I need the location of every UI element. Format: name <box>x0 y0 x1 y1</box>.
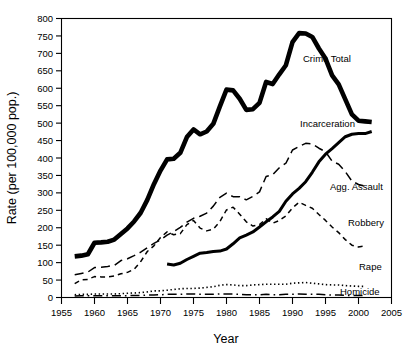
chart-background <box>0 0 417 355</box>
x-tick-label: 2005 <box>381 307 402 318</box>
y-tick-label: 450 <box>37 135 53 146</box>
x-tick-label: 2000 <box>348 307 369 318</box>
series-label-robbery: Robbery <box>348 217 384 228</box>
crime-rate-chart: 0501001502002503003504004505005506006507… <box>0 0 417 355</box>
y-tick-label: 550 <box>37 100 53 111</box>
series-label-homicide: Homicide <box>340 286 380 297</box>
x-axis-title: Year <box>213 332 238 346</box>
y-tick-label: 0 <box>48 292 53 303</box>
x-tick-label: 1955 <box>51 307 72 318</box>
x-tick-label: 1970 <box>150 307 171 318</box>
y-tick-label: 800 <box>37 13 53 24</box>
y-tick-label: 300 <box>37 187 53 198</box>
chart-canvas: 0501001502002503003504004505005506006507… <box>0 0 417 355</box>
series-label-incarceration: Incarceration <box>300 118 355 129</box>
x-tick-label: 1960 <box>84 307 105 318</box>
y-tick-label: 150 <box>37 240 53 251</box>
series-label-rape: Rape <box>359 261 382 272</box>
x-tick-label: 1995 <box>315 307 336 318</box>
y-tick-label: 600 <box>37 83 53 94</box>
y-axis-title: Rate (per 100,000 pop.) <box>5 92 19 225</box>
y-tick-label: 200 <box>37 222 53 233</box>
y-tick-label: 50 <box>42 275 53 286</box>
series-label-crime-total: Crime Total <box>303 53 351 64</box>
x-tick-label: 1985 <box>249 307 270 318</box>
y-tick-label: 700 <box>37 48 53 59</box>
y-tick-label: 750 <box>37 31 53 42</box>
x-tick-label: 1990 <box>282 307 303 318</box>
y-tick-label: 400 <box>37 153 53 164</box>
y-tick-label: 500 <box>37 118 53 129</box>
y-tick-label: 250 <box>37 205 53 216</box>
x-tick-label: 1975 <box>183 307 204 318</box>
series-label-agg-assault: Agg. Assault <box>330 181 383 192</box>
y-tick-label: 650 <box>37 65 53 76</box>
x-tick-label: 1965 <box>117 307 138 318</box>
x-tick-label: 1980 <box>216 307 237 318</box>
y-tick-label: 350 <box>37 170 53 181</box>
y-tick-label: 100 <box>37 257 53 268</box>
